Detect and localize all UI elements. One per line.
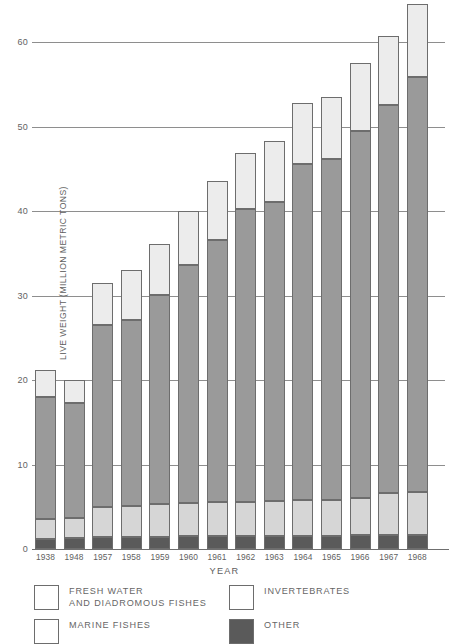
bar-segment-1948-invertebrates (64, 380, 85, 403)
bar-segment-1959-marine-fishes (149, 295, 170, 505)
bar-segment-1948-fresh-water-and-diadromous-fishes (64, 518, 85, 538)
bar-segment-1957-other (92, 537, 113, 549)
bar-segment-1965-fresh-water-and-diadromous-fishes (321, 500, 342, 536)
bar-segment-1968-fresh-water-and-diadromous-fishes (407, 492, 428, 535)
legend-item-other: OTHER (229, 619, 300, 644)
bar-segment-1959-other (149, 537, 170, 549)
legend-label-other: OTHER (264, 619, 300, 632)
y-axis-tick-10: 10 (18, 461, 28, 470)
bar-1968 (407, 0, 428, 550)
bar-1965 (321, 0, 342, 550)
x-axis-tick-1962: 1962 (231, 552, 261, 562)
x-axis-tick-labels: 1938194819571958195919601961196219631964… (32, 552, 449, 566)
bar-1961 (207, 0, 228, 550)
x-axis-tick-1957: 1957 (88, 552, 118, 562)
bar-segment-1964-fresh-water-and-diadromous-fishes (292, 500, 313, 536)
bar-segment-1957-fresh-water-and-diadromous-fishes (92, 507, 113, 537)
bar-1963 (264, 0, 285, 550)
bar-segment-1966-marine-fishes (350, 131, 371, 499)
bar-segment-1938-other (35, 539, 56, 549)
bar-segment-1967-invertebrates (378, 36, 399, 105)
bar-1938 (35, 0, 56, 550)
x-axis-tick-1967: 1967 (374, 552, 404, 562)
bar-segment-1938-invertebrates (35, 370, 56, 397)
x-axis-tick-1966: 1966 (345, 552, 375, 562)
bar-segment-1958-marine-fishes (121, 320, 142, 506)
legend-swatch-invertebrates (229, 585, 254, 610)
x-axis-tick-1959: 1959 (145, 552, 175, 562)
x-axis-tick-1958: 1958 (116, 552, 146, 562)
bar-1967 (378, 0, 399, 550)
bar-segment-1967-marine-fishes (378, 105, 399, 493)
legend-item-fresh-water: FRESH WATER AND DIADROMOUS FISHES (34, 585, 207, 610)
y-axis-tick-50: 50 (18, 123, 28, 132)
bar-1959 (149, 0, 170, 550)
y-axis-tick-labels: 0102030405060 (0, 0, 28, 550)
y-axis-tick-20: 20 (18, 376, 28, 385)
legend-item-invertebrates: INVERTEBRATES (229, 585, 350, 610)
bar-segment-1959-invertebrates (149, 244, 170, 295)
legend-item-marine-fishes: MARINE FISHES (34, 619, 151, 644)
bar-segment-1961-marine-fishes (207, 240, 228, 502)
x-axis-tick-1968: 1968 (402, 552, 432, 562)
bar-segment-1965-marine-fishes (321, 159, 342, 500)
bar-segment-1967-other (378, 535, 399, 549)
bar-segment-1961-other (207, 536, 228, 549)
bar-segment-1948-marine-fishes (64, 403, 85, 518)
bar-segment-1958-invertebrates (121, 270, 142, 320)
bar-1966 (350, 0, 371, 550)
bar-segment-1968-marine-fishes (407, 77, 428, 492)
y-axis-tick-0: 0 (23, 545, 28, 554)
bar-segment-1962-fresh-water-and-diadromous-fishes (235, 502, 256, 537)
legend-label-marine-fishes: MARINE FISHES (69, 619, 151, 632)
legend-swatch-marine-fishes (34, 619, 59, 644)
x-axis-tick-1938: 1938 (31, 552, 61, 562)
x-axis-tick-1961: 1961 (202, 552, 232, 562)
y-axis-tick-60: 60 (18, 38, 28, 47)
bar-1960 (178, 0, 199, 550)
bar-segment-1958-fresh-water-and-diadromous-fishes (121, 506, 142, 537)
bar-segment-1961-invertebrates (207, 181, 228, 239)
y-axis-tick-30: 30 (18, 292, 28, 301)
x-axis-title: YEAR (0, 566, 449, 576)
bar-segment-1963-fresh-water-and-diadromous-fishes (264, 501, 285, 536)
bar-segment-1961-fresh-water-and-diadromous-fishes (207, 502, 228, 537)
bar-segment-1963-other (264, 536, 285, 549)
bar-segment-1960-marine-fishes (178, 265, 199, 502)
bar-segment-1962-marine-fishes (235, 209, 256, 501)
bar-1957 (92, 0, 113, 550)
legend-swatch-fresh-water (34, 585, 59, 610)
bar-segment-1960-other (178, 536, 199, 549)
bar-1962 (235, 0, 256, 550)
bar-segment-1957-invertebrates (92, 283, 113, 325)
bar-segment-1948-other (64, 538, 85, 549)
chart-legend: FRESH WATER AND DIADROMOUS FISHES MARINE… (0, 583, 449, 643)
bar-segment-1963-invertebrates (264, 141, 285, 202)
bar-segment-1963-marine-fishes (264, 202, 285, 501)
bar-segment-1966-other (350, 535, 371, 549)
legend-swatch-other (229, 619, 254, 644)
x-axis-tick-1964: 1964 (288, 552, 318, 562)
legend-label-invertebrates: INVERTEBRATES (264, 585, 350, 598)
bar-segment-1968-other (407, 535, 428, 549)
bar-segment-1938-marine-fishes (35, 397, 56, 520)
bar-segment-1960-fresh-water-and-diadromous-fishes (178, 503, 199, 537)
legend-label-fresh-water: FRESH WATER AND DIADROMOUS FISHES (69, 585, 207, 609)
bar-segment-1965-other (321, 536, 342, 549)
bar-segment-1965-invertebrates (321, 97, 342, 160)
bar-segment-1962-invertebrates (235, 153, 256, 210)
bar-segment-1959-fresh-water-and-diadromous-fishes (149, 504, 170, 537)
bar-segment-1966-invertebrates (350, 63, 371, 131)
bar-segment-1957-marine-fishes (92, 325, 113, 507)
x-axis-tick-1963: 1963 (259, 552, 289, 562)
y-axis-title: LIVE WEIGHT (MILLION METRIC TONS) (58, 163, 68, 383)
x-axis-tick-1960: 1960 (174, 552, 204, 562)
bar-segment-1964-other (292, 536, 313, 549)
x-axis-tick-1965: 1965 (317, 552, 347, 562)
bar-segment-1967-fresh-water-and-diadromous-fishes (378, 493, 399, 535)
bar-segment-1964-invertebrates (292, 103, 313, 164)
y-axis-tick-40: 40 (18, 207, 28, 216)
bar-segment-1958-other (121, 537, 142, 549)
plot-area (32, 0, 449, 550)
